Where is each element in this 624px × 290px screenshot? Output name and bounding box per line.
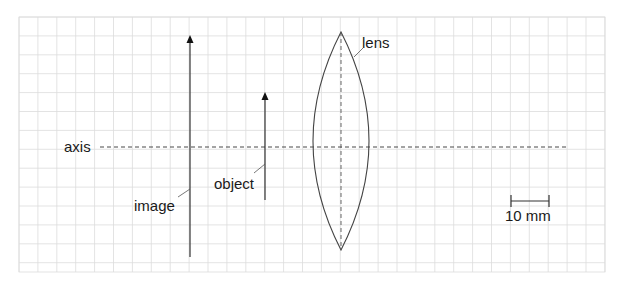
diagram-canvas	[0, 0, 624, 290]
object-arrow	[262, 92, 269, 200]
image-leader-line	[178, 189, 190, 197]
scale-label: 10 mm	[505, 208, 551, 223]
scale-bar	[511, 195, 549, 207]
ray-diagram: axis lens object image 10 mm	[0, 0, 624, 290]
lens-label: lens	[362, 35, 390, 50]
object-label: object	[214, 176, 254, 191]
arrowhead-icon	[262, 92, 269, 100]
leader-lines	[178, 48, 363, 197]
axis-label: axis	[64, 139, 91, 154]
grid-paper	[19, 17, 605, 272]
image-arrow	[187, 35, 194, 257]
image-label: image	[134, 198, 175, 213]
